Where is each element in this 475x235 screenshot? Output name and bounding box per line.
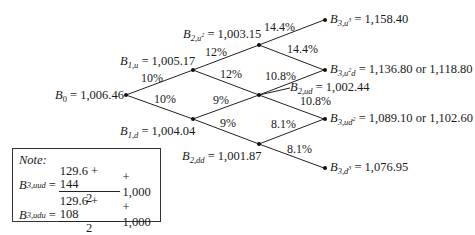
rate-b0-down: 10% xyxy=(154,93,176,105)
node-b3ddd: B3,d3 = 1,076.95 xyxy=(330,161,408,174)
node-b3uud: B3,u2d = 1,136.80 or 1,118.80 xyxy=(330,63,473,76)
rate-b2uu-up: 14.4% xyxy=(264,21,295,33)
node-b1u: B1,u = 1,005.17 xyxy=(120,55,195,68)
note-box: Note: B3,uud = 129.6 + 144 2 + 1,000 B3,… xyxy=(12,148,161,222)
rate-b2ud-up: 10.8% xyxy=(265,70,296,82)
node-b3udd: B3,ud2 = 1,089.10 or 1,102.60 xyxy=(330,112,473,125)
rate-b2ud-down: 10.8% xyxy=(300,95,331,107)
node-b2ud: B2,ud = 1,002.44 xyxy=(290,81,370,94)
node-b3uuu: B3,u3 = 1,158.40 xyxy=(330,13,408,26)
node-b1d: B1,d = 1,004.04 xyxy=(120,125,195,138)
rate-b1d-down: 9% xyxy=(220,117,236,129)
rate-b1u-up: 12% xyxy=(205,46,227,58)
rate-b0-up: 10% xyxy=(141,72,163,84)
node-b2uu: B2,u2 = 1,003.15 xyxy=(183,28,261,41)
rate-b2dd-up: 8.1% xyxy=(271,118,296,130)
rate-b2uu-down: 14.4% xyxy=(287,43,318,55)
rate-b2dd-down: 8.1% xyxy=(287,143,312,155)
node-b0: B0 = 1,006.46 xyxy=(55,89,124,102)
fraction: 129.6 + 108 2 xyxy=(59,195,120,235)
node-b2dd: B2,dd = 1,001.87 xyxy=(182,150,262,163)
note-equation-udu: B3,udu = 129.6 + 108 2 + 1,000 xyxy=(19,200,160,230)
rate-b1u-down: 12% xyxy=(220,68,242,80)
rate-b1d-up: 9% xyxy=(213,94,229,106)
